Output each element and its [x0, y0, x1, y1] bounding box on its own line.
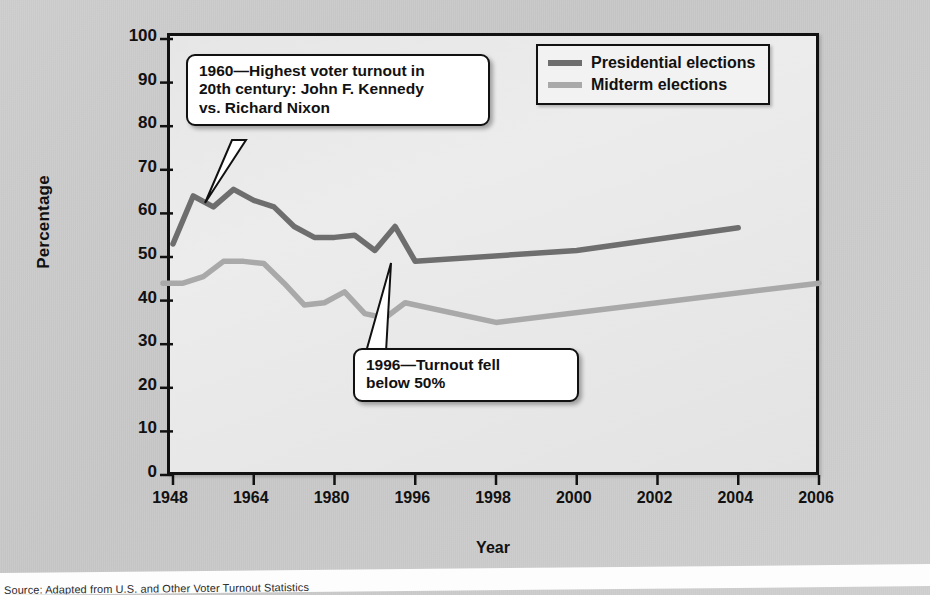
x-axis-tick-2000: 2000	[539, 489, 609, 507]
y-axis-tick-50: 50	[105, 245, 157, 262]
legend-item-midterm: Midterm elections	[548, 74, 756, 96]
series-line-midterm	[163, 261, 819, 322]
annotation-callout-1996: 1996—Turnout fell below 50%	[353, 348, 579, 402]
y-axis-tick-0: 0	[105, 463, 157, 480]
annotation-callout-1960-text: 1960—Highest voter turnout in 20th centu…	[199, 62, 477, 117]
y-axis-tick-20: 20	[105, 376, 157, 393]
y-axis-tick-70: 70	[105, 158, 157, 175]
voter-turnout-chart: Percentage Year 0102030405060708090100 1…	[0, 0, 930, 572]
series-line-presidential	[173, 189, 738, 261]
chart-page: Percentage Year 0102030405060708090100 1…	[0, 0, 930, 595]
y-axis-tick-60: 60	[105, 201, 157, 218]
y-axis-tick-40: 40	[105, 289, 157, 306]
y-axis-tick-100: 100	[105, 27, 157, 44]
x-axis-tick-1996: 1996	[377, 489, 447, 507]
legend-label-presidential: Presidential elections	[591, 54, 756, 72]
y-axis-label: Percentage	[34, 152, 54, 292]
annotation-callout-1960: 1960—Highest voter turnout in 20th centu…	[186, 54, 490, 126]
x-axis-tick-1998: 1998	[458, 489, 528, 507]
y-axis-tick-80: 80	[105, 114, 157, 131]
legend-swatch-midterm	[548, 82, 582, 88]
x-axis-tick-1964: 1964	[216, 489, 286, 507]
y-axis-tick-30: 30	[105, 332, 157, 349]
legend-item-presidential: Presidential elections	[548, 52, 756, 74]
y-axis-tick-90: 90	[105, 71, 157, 88]
x-axis-tick-1948: 1948	[135, 489, 205, 507]
x-axis-tick-1980: 1980	[297, 489, 367, 507]
y-axis-tick-10: 10	[105, 419, 157, 436]
legend-label-midterm: Midterm elections	[591, 76, 727, 94]
source-caption-text: Source: Adapted from U.S. and Other Vote…	[4, 581, 309, 595]
legend-swatch-presidential	[548, 60, 582, 66]
x-axis-tick-2002: 2002	[620, 489, 690, 507]
annotation-callout-1996-text: 1996—Turnout fell below 50%	[366, 356, 566, 393]
x-axis-tick-2004: 2004	[700, 489, 770, 507]
chart-legend: Presidential elections Midterm elections	[536, 44, 770, 105]
x-axis-label: Year	[167, 539, 819, 557]
x-axis-tick-2006: 2006	[781, 489, 851, 507]
